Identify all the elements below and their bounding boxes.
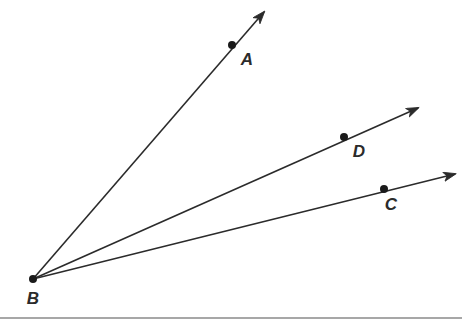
point-dot-C <box>380 185 388 193</box>
ray-BC-line <box>33 174 455 279</box>
point-dot-A <box>228 41 236 49</box>
point-label-B: B <box>27 290 39 307</box>
point-dot-B <box>29 275 37 283</box>
geometry-canvas <box>0 0 462 326</box>
point-label-C: C <box>385 196 397 213</box>
ray-BA-line <box>33 12 264 279</box>
point-dot-D <box>340 133 348 141</box>
point-label-D: D <box>353 143 365 160</box>
geometry-diagram: A D C B <box>0 0 462 326</box>
ray-BD-line <box>33 108 418 279</box>
point-label-A: A <box>241 51 253 68</box>
